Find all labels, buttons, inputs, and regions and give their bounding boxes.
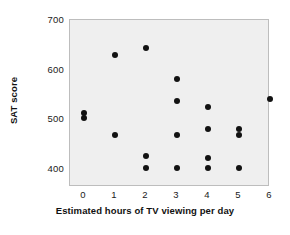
data-point bbox=[205, 155, 211, 161]
x-axis-title: Estimated hours of TV viewing per day bbox=[0, 205, 290, 216]
x-axis-tick-labels: 0123456 bbox=[0, 189, 290, 205]
scatterplot-figure: 400500600700 0123456 Estimated hours of … bbox=[0, 0, 290, 235]
data-point bbox=[205, 165, 211, 171]
data-point bbox=[143, 45, 149, 51]
y-tick-label: 500 bbox=[48, 113, 64, 124]
data-point bbox=[236, 132, 242, 138]
plot-area bbox=[69, 19, 269, 186]
x-tick-label: 2 bbox=[142, 189, 147, 200]
y-tick-label: 400 bbox=[48, 162, 64, 173]
data-point bbox=[174, 165, 180, 171]
x-tick-label: 0 bbox=[80, 189, 85, 200]
y-tick-label: 700 bbox=[48, 14, 64, 25]
x-tick-label: 5 bbox=[235, 189, 240, 200]
y-tick-label: 600 bbox=[48, 63, 64, 74]
y-axis-title: SAT score bbox=[8, 51, 19, 151]
data-point bbox=[143, 165, 149, 171]
data-point bbox=[174, 76, 180, 82]
data-point bbox=[174, 132, 180, 138]
x-tick-label: 3 bbox=[173, 189, 178, 200]
data-point bbox=[174, 98, 180, 104]
x-tick-label: 1 bbox=[111, 189, 116, 200]
x-tick-label: 6 bbox=[266, 189, 271, 200]
data-point bbox=[236, 126, 242, 132]
data-point bbox=[205, 104, 211, 110]
data-point bbox=[205, 126, 211, 132]
data-point bbox=[112, 52, 118, 58]
data-point bbox=[143, 153, 149, 159]
data-point bbox=[236, 165, 242, 171]
data-point bbox=[112, 132, 118, 138]
data-point bbox=[81, 115, 87, 121]
data-point bbox=[267, 96, 273, 102]
x-tick-label: 4 bbox=[204, 189, 209, 200]
